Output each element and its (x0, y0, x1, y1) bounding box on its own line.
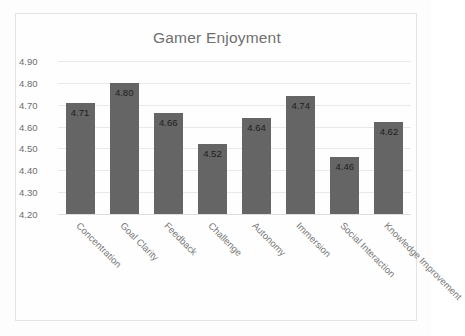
category-label: Knowledge Improvement (383, 220, 465, 302)
bars-layer: 4.714.804.664.524.644.744.464.62 (58, 61, 411, 214)
bar-value-label: 4.74 (286, 100, 315, 111)
bar-value-label: 4.64 (242, 122, 271, 133)
bar[interactable]: 4.74 (286, 96, 315, 214)
y-axis-tick-label: 4.60 (16, 121, 58, 132)
bar[interactable]: 4.71 (66, 103, 95, 214)
bar-value-label: 4.80 (110, 87, 139, 98)
y-axis-tick-label: 4.30 (16, 187, 58, 198)
y-axis-tick-label: 4.80 (16, 77, 58, 88)
bar[interactable]: 4.66 (154, 113, 183, 214)
bar[interactable]: 4.46 (330, 157, 359, 214)
chart-frame: Gamer Enjoyment 4.904.804.704.604.504.40… (15, 13, 417, 321)
category-axis: ConcentrationGoal ClarityFeedbackChallen… (58, 214, 411, 334)
category-label: Concentration (74, 220, 124, 270)
bar[interactable]: 4.64 (242, 118, 271, 214)
chart-title: Gamer Enjoyment (16, 29, 418, 47)
category-label: Goal Clarity (118, 220, 161, 263)
y-axis-tick-label: 4.20 (16, 209, 58, 220)
bar[interactable]: 4.80 (110, 83, 139, 214)
bar-value-label: 4.62 (374, 126, 403, 137)
category-label: Immersion (294, 220, 333, 259)
y-axis-tick-label: 4.40 (16, 165, 58, 176)
bar[interactable]: 4.52 (198, 144, 227, 214)
bar-value-label: 4.66 (154, 117, 183, 128)
bar-value-label: 4.71 (66, 107, 95, 118)
bar[interactable]: 4.62 (374, 122, 403, 214)
category-label: Feedback (162, 220, 199, 257)
category-label: Challenge (206, 220, 244, 258)
y-axis-tick-label: 4.70 (16, 99, 58, 110)
category-label: Autonomy (250, 220, 288, 258)
bar-value-label: 4.52 (198, 148, 227, 159)
y-axis-tick-label: 4.50 (16, 143, 58, 154)
y-axis: 4.904.804.704.604.504.404.304.20 (16, 61, 58, 214)
bar-value-label: 4.46 (330, 161, 359, 172)
y-axis-tick-label: 4.90 (16, 56, 58, 67)
